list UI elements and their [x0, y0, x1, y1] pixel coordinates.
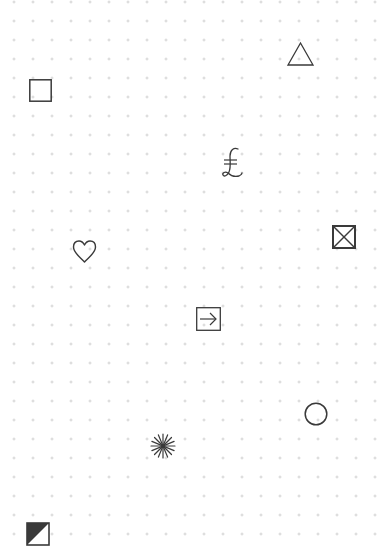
circle-icon — [304, 402, 328, 426]
asterisk-icon — [150, 433, 176, 459]
boxed-right-arrow-icon — [196, 307, 221, 331]
half-shaded-square-icon — [26, 522, 50, 546]
square-icon — [29, 79, 52, 102]
squared-x-icon — [332, 225, 356, 249]
lira-sign-icon — [219, 146, 245, 180]
heart-icon — [72, 240, 97, 263]
triangle-icon — [287, 42, 314, 66]
